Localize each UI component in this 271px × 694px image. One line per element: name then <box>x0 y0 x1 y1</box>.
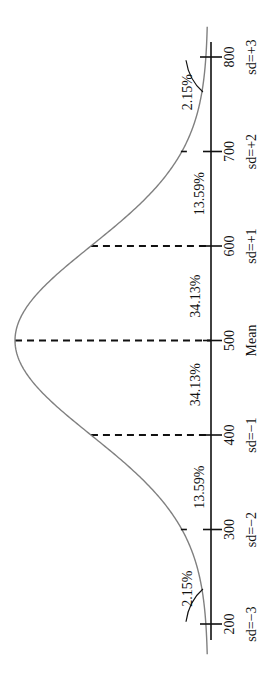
region-label-700-800: 2.15% <box>180 74 195 111</box>
sd-label-500: Mean <box>244 325 259 357</box>
sd-label-400: sd=−1 <box>244 417 259 452</box>
tick-label-300: 300 <box>222 519 237 540</box>
dashed-lines <box>15 246 211 435</box>
region-label-600-700: 13.59% <box>192 172 207 216</box>
region-label-300-400: 13.59% <box>192 465 207 509</box>
sd-label-200: sd=−3 <box>244 606 259 641</box>
sd-label-300: sd=−2 <box>244 512 259 547</box>
region-label-200-300: 2.15% <box>180 570 195 607</box>
tick-label-600: 600 <box>222 236 237 257</box>
normal-distribution-diagram: 2.15%13.59%34.13%34.13%13.59%2.15% 200sd… <box>0 0 271 694</box>
sd-label-700: sd=+2 <box>244 134 259 169</box>
sd-label-600: sd=+1 <box>244 228 259 263</box>
sd-label-800: sd=+3 <box>244 39 259 74</box>
tick-label-800: 800 <box>222 47 237 68</box>
tick-label-500: 500 <box>222 330 237 351</box>
tick-labels: 200sd=−3300sd=−2400sd=−1500Mean600sd=+17… <box>222 39 259 641</box>
tick-label-200: 200 <box>222 614 237 635</box>
tick-label-400: 400 <box>222 425 237 446</box>
region-label-500-600: 34.13% <box>188 274 203 318</box>
region-label-400-500: 34.13% <box>188 363 203 407</box>
tick-label-700: 700 <box>222 141 237 162</box>
